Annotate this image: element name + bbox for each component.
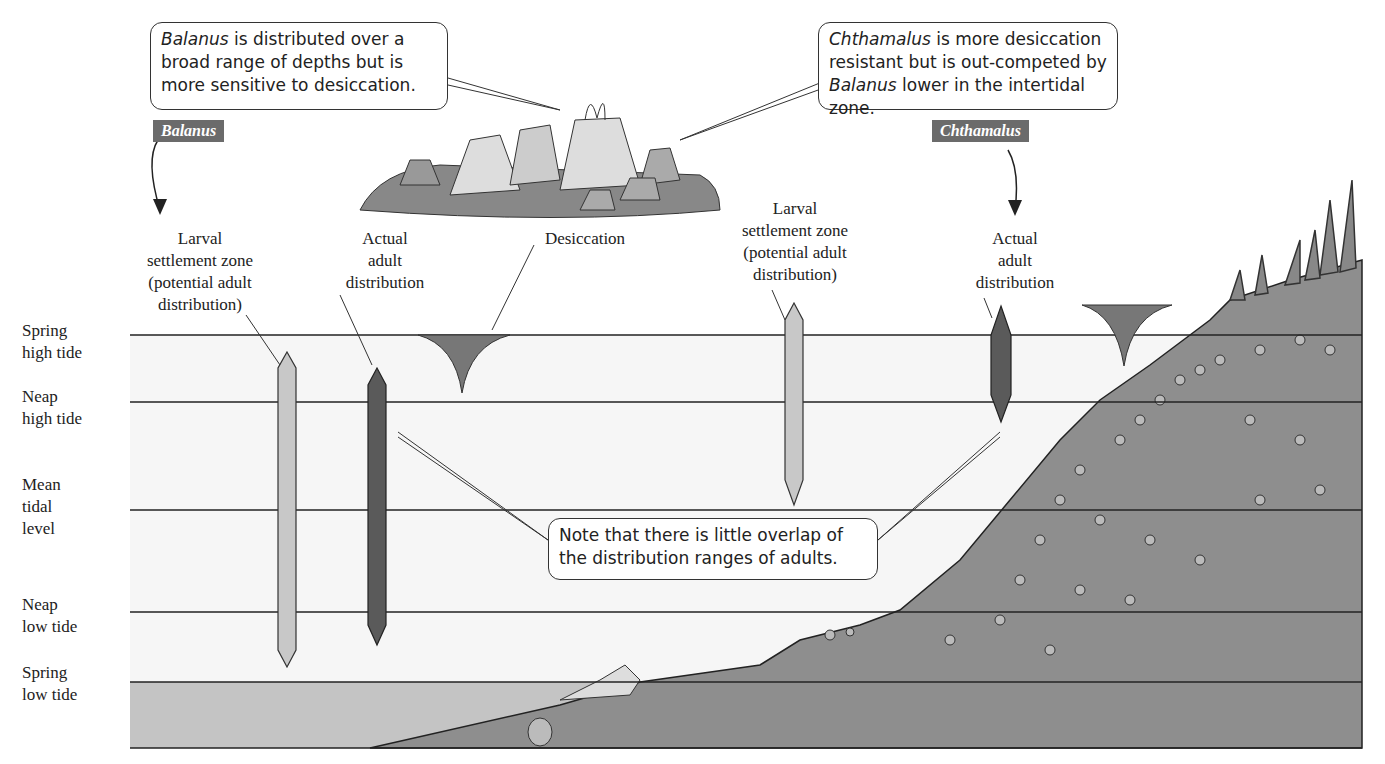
chthamalus-larval-range-bar — [785, 303, 803, 505]
label-line: distribution — [950, 272, 1080, 294]
label-line: Larval — [700, 198, 890, 220]
scallop-shell-icon — [528, 718, 552, 746]
label-line: Mean — [22, 474, 61, 496]
label-line: distribution) — [110, 294, 290, 316]
chthamalus-larval-label: Larval settlement zone (potential adult … — [700, 198, 890, 286]
chthamalus-italic: Chthamalus — [829, 29, 931, 49]
label-line: adult — [320, 250, 450, 272]
chthamalus-actual-label: Actual adult distribution — [950, 228, 1080, 294]
label-line: (potential adult — [110, 272, 290, 294]
label-line: distribution) — [700, 264, 890, 286]
label-line: (potential adult — [700, 242, 890, 264]
label-line: high tide — [22, 342, 82, 364]
chthamalus-tag: Chthamalus — [932, 120, 1029, 142]
label-line: level — [22, 518, 61, 540]
label-line: adult — [950, 250, 1080, 272]
label-line: settlement zone — [110, 250, 290, 272]
arrow-head-icon — [153, 199, 167, 215]
balanus-actual-label: Actual adult distribution — [320, 228, 450, 294]
tide-label-spring-low: Spring low tide — [22, 662, 77, 706]
label-line: distribution — [320, 272, 450, 294]
balanus-adult-range-bar — [368, 368, 386, 645]
label-line: low tide — [22, 684, 77, 706]
barnacle-illustration — [360, 103, 720, 217]
label-line: Actual — [320, 228, 450, 250]
label-line: settlement zone — [700, 220, 890, 242]
label-line: Neap — [22, 386, 82, 408]
desiccation-label: Desiccation — [520, 228, 650, 250]
label-line: Larval — [110, 228, 290, 250]
label-line: high tide — [22, 408, 82, 430]
tide-label-neap-low: Neap low tide — [22, 594, 77, 638]
balanus-italic: Balanus — [161, 29, 229, 49]
label-line: Actual — [950, 228, 1080, 250]
label-line: tidal — [22, 496, 61, 518]
intertidal-diagram — [0, 0, 1385, 764]
balanus-larval-label: Larval settlement zone (potential adult … — [110, 228, 290, 316]
balanus-italic-2: Balanus — [829, 75, 897, 95]
balanus-callout: Balanus is distributed over a broad rang… — [150, 22, 448, 110]
chthamalus-callout: Chthamalus is more desiccation resistant… — [818, 22, 1118, 110]
balanus-tag: Balanus — [153, 120, 224, 142]
label-line: Spring — [22, 320, 82, 342]
label-line: Neap — [22, 594, 77, 616]
balanus-larval-range-bar — [278, 352, 296, 667]
label-line: Spring — [22, 662, 77, 684]
overlap-callout: Note that there is little overlap of the… — [548, 518, 878, 580]
chthamalus-adult-range-bar — [991, 306, 1011, 422]
tide-label-spring-high: Spring high tide — [22, 320, 82, 364]
arrow-head-icon — [1008, 200, 1022, 216]
tide-label-neap-high: Neap high tide — [22, 386, 82, 430]
tide-label-mean: Mean tidal level — [22, 474, 61, 540]
label-line: low tide — [22, 616, 77, 638]
overlap-callout-text: Note that there is little overlap of the… — [559, 525, 843, 568]
